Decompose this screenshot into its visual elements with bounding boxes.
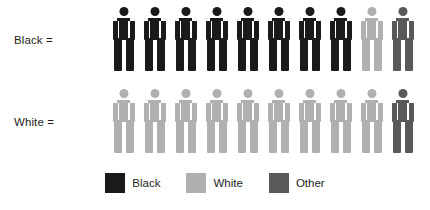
person-armR (128, 103, 129, 120)
person-body (113, 100, 135, 122)
figure-cell (232, 89, 263, 155)
figure-cell (263, 7, 294, 73)
figure-cell (387, 89, 418, 155)
person-body (237, 18, 259, 40)
person-head (150, 89, 159, 98)
pictogram-chart: Black = White = BlackWhiteOther (0, 0, 430, 210)
person-armL (211, 103, 212, 120)
person-armL (273, 21, 274, 38)
person-armL (397, 21, 398, 38)
person-legL (362, 120, 370, 153)
person-head (336, 89, 345, 98)
legend-label-black: Black (132, 177, 160, 189)
legend-item-black[interactable]: Black (105, 173, 160, 193)
person-armR (314, 21, 315, 38)
person-icon (144, 89, 166, 153)
person-legR (126, 38, 134, 71)
person-armL (118, 21, 119, 38)
figure-cell (325, 89, 356, 155)
person-head (119, 89, 128, 98)
person-armL (211, 21, 212, 38)
person-legR (312, 120, 320, 153)
person-icon (330, 89, 352, 153)
person-legR (312, 38, 320, 71)
person-armR (252, 103, 253, 120)
person-body (268, 100, 290, 122)
person-body (330, 100, 352, 122)
person-head (398, 89, 407, 98)
person-body (206, 18, 228, 40)
figure-cell (170, 7, 201, 73)
person-legR (405, 38, 413, 71)
person-legL (176, 120, 184, 153)
person-legL (331, 120, 339, 153)
figure-cell (387, 7, 418, 73)
person-armL (304, 21, 305, 38)
pictogram-row-white: White = (0, 89, 430, 155)
figure-cell (170, 89, 201, 155)
person-armR (314, 103, 315, 120)
person-icon (113, 89, 135, 153)
person-body (330, 18, 352, 40)
person-body (361, 100, 383, 122)
figure-cell (232, 7, 263, 73)
person-legR (343, 38, 351, 71)
figure-cell (356, 89, 387, 155)
person-armR (190, 103, 191, 120)
person-head (243, 7, 252, 16)
person-legR (374, 38, 382, 71)
person-head (305, 7, 314, 16)
figure-cell (294, 7, 325, 73)
figure-cell (263, 89, 294, 155)
person-armR (159, 103, 160, 120)
figure-cell (294, 89, 325, 155)
person-legR (343, 120, 351, 153)
person-legL (331, 38, 339, 71)
person-armL (397, 103, 398, 120)
person-head (212, 7, 221, 16)
person-head (367, 89, 376, 98)
person-armR (407, 21, 408, 38)
legend-item-white[interactable]: White (186, 173, 242, 193)
person-armL (118, 103, 119, 120)
person-icon (237, 89, 259, 153)
person-legL (145, 38, 153, 71)
person-legL (269, 38, 277, 71)
person-armR (128, 21, 129, 38)
person-icon (175, 89, 197, 153)
person-icon (268, 89, 290, 153)
person-armR (221, 21, 222, 38)
figure-cell (325, 7, 356, 73)
legend-swatch-white (186, 173, 206, 193)
person-armR (345, 21, 346, 38)
person-head (274, 89, 283, 98)
person-armL (180, 103, 181, 120)
person-armL (149, 21, 150, 38)
person-legR (188, 38, 196, 71)
person-head (119, 7, 128, 16)
person-body (299, 18, 321, 40)
person-armL (366, 103, 367, 120)
person-legL (393, 120, 401, 153)
person-body (392, 100, 414, 122)
person-icon (206, 89, 228, 153)
figure-cell (201, 89, 232, 155)
person-icon (299, 7, 321, 71)
person-legR (405, 120, 413, 153)
legend-label-other: Other (296, 177, 325, 189)
figure-cell (139, 89, 170, 155)
pictogram-row-black: Black = (0, 7, 430, 73)
person-legL (238, 120, 246, 153)
person-legL (269, 120, 277, 153)
person-legR (157, 38, 165, 71)
person-armL (335, 21, 336, 38)
person-legR (126, 120, 134, 153)
row-label-white: White = (14, 116, 54, 128)
person-body (175, 100, 197, 122)
person-head (181, 89, 190, 98)
person-legR (219, 120, 227, 153)
person-body (361, 18, 383, 40)
person-legL (176, 38, 184, 71)
legend-item-other[interactable]: Other (269, 173, 325, 193)
legend-label-white: White (213, 177, 242, 189)
